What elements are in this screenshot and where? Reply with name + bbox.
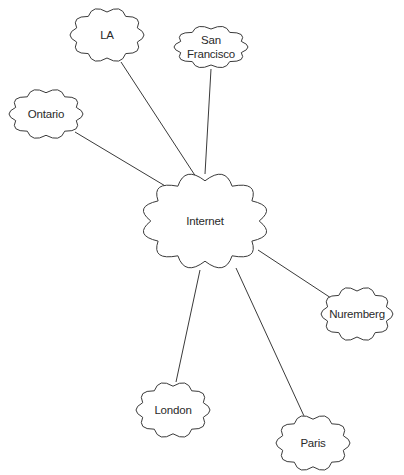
connection-line-internet-london bbox=[176, 270, 200, 382]
node-label-san-francisco: San Francisco bbox=[187, 33, 235, 61]
node-label-nuremberg: Nuremberg bbox=[329, 307, 385, 321]
connection-line-san-francisco-internet bbox=[205, 69, 211, 174]
connection-line-ontario-internet bbox=[75, 132, 177, 193]
node-label-internet: Internet bbox=[186, 214, 223, 228]
node-label-la: LA bbox=[100, 28, 114, 42]
network-diagram bbox=[0, 0, 404, 475]
connection-line-la-internet bbox=[121, 62, 198, 180]
node-label-ontario: Ontario bbox=[28, 107, 64, 121]
node-label-london: London bbox=[154, 403, 191, 417]
connection-line-internet-paris bbox=[236, 268, 304, 416]
connection-line-internet-nuremberg bbox=[258, 250, 331, 298]
node-label-paris: Paris bbox=[300, 436, 325, 450]
